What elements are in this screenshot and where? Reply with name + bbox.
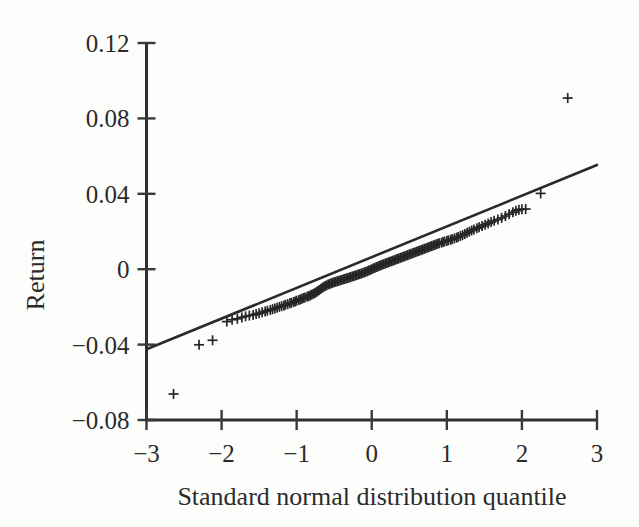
reference-line-group: [147, 165, 598, 349]
x-tick-label: −3: [133, 440, 160, 467]
x-tick-label: 3: [591, 440, 604, 467]
reference-line: [147, 165, 598, 349]
y-tick-label: 0: [117, 256, 130, 283]
x-tick-label: −2: [208, 440, 235, 467]
qq-plot-figure: −0.08−0.0400.040.080.12 −3−2−10123 Retur…: [0, 0, 639, 527]
data-point-marker: [208, 335, 218, 345]
y-axis-title: Return: [21, 240, 50, 311]
data-markers-group: [169, 93, 573, 399]
data-point-marker: [169, 389, 179, 399]
y-tick-label: 0.04: [86, 181, 130, 208]
x-tick-label: 1: [441, 440, 454, 467]
x-tick-label: 2: [516, 440, 529, 467]
x-tick-label: 0: [366, 440, 379, 467]
chart-canvas: −0.08−0.0400.040.080.12 −3−2−10123 Retur…: [0, 0, 639, 527]
axes-group: [145, 43, 597, 421]
y-tick-label: −0.08: [72, 407, 130, 434]
y-tick-label: 0.12: [86, 30, 130, 57]
y-tick-label: 0.08: [86, 105, 130, 132]
y-tick-group: −0.08−0.0400.040.080.12: [72, 30, 156, 434]
data-point-marker: [232, 314, 242, 324]
y-tick-label: −0.04: [72, 332, 130, 359]
x-tick-label: −1: [283, 440, 310, 467]
data-point-marker: [563, 93, 573, 103]
x-axis-title: Standard normal distribution quantile: [177, 482, 566, 511]
data-point-marker: [194, 340, 204, 350]
